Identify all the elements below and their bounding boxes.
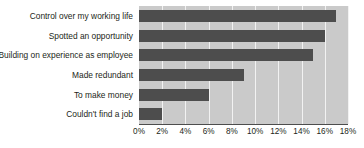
bar-track: [139, 108, 348, 120]
category-label: Made redundant: [72, 69, 133, 81]
bar-track: [139, 69, 348, 81]
bar-chart: Control over my working lifeSpotted an o…: [0, 0, 364, 148]
gridline: [255, 6, 256, 124]
tick-label: 14%: [293, 126, 309, 138]
gridline: [325, 6, 326, 124]
bar[interactable]: [139, 30, 325, 42]
bar-track: [139, 30, 348, 42]
gridline: [232, 6, 233, 124]
bar[interactable]: [139, 89, 209, 101]
tick-label: 10%: [247, 126, 263, 138]
category-label: Couldn't find a job: [66, 108, 133, 120]
category-axis: Control over my working lifeSpotted an o…: [0, 6, 136, 124]
tick-label: 2%: [156, 126, 168, 138]
category-label: Building on experience as employee: [0, 49, 133, 61]
gridline: [209, 6, 210, 124]
bar[interactable]: [139, 49, 313, 61]
tick-label: 16%: [317, 126, 333, 138]
plot-area: [139, 6, 348, 125]
bar[interactable]: [139, 108, 162, 120]
bar-track: [139, 89, 348, 101]
tick-label: 12%: [270, 126, 286, 138]
category-label: Spotted an opportunity: [49, 30, 133, 42]
bar[interactable]: [139, 10, 336, 22]
category-label: To make money: [74, 89, 133, 101]
bar[interactable]: [139, 69, 244, 81]
tick-label: 8%: [226, 126, 238, 138]
tick-label: 4%: [180, 126, 192, 138]
gridline: [302, 6, 303, 124]
category-label: Control over my working life: [30, 10, 133, 22]
gridline: [278, 6, 279, 124]
gridline: [185, 6, 186, 124]
gridline: [162, 6, 163, 124]
tick-label: 18%: [340, 126, 356, 138]
bar-track: [139, 49, 348, 61]
bar-track: [139, 10, 348, 22]
gridline: [348, 6, 349, 124]
value-axis: 0%2%4%6%8%10%12%14%16%18%: [139, 126, 348, 140]
tick-label: 6%: [203, 126, 215, 138]
tick-label: 0%: [133, 126, 145, 138]
